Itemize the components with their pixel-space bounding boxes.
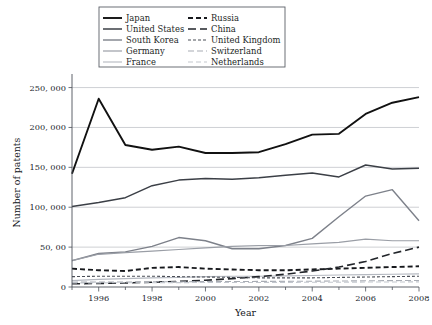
x-axis-title: Year xyxy=(234,307,257,318)
legend-label-france: France xyxy=(126,57,156,67)
y-tick-label: 150, 000 xyxy=(30,162,66,172)
x-tick-label: 2004 xyxy=(302,293,323,303)
series-line-russia xyxy=(72,266,419,271)
x-tick-label: 2000 xyxy=(195,293,216,303)
y-tick-label: 200, 000 xyxy=(30,122,66,132)
y-axis-title: Number of patents xyxy=(11,137,22,227)
legend-label-united-kingdom: United Kingdom xyxy=(211,35,281,45)
legend-label-switzerland: Switzerland xyxy=(211,46,262,56)
series-line-south-korea xyxy=(72,190,419,261)
y-axis-ticks: 050, 00100, 000150, 000200, 000250, 000 xyxy=(30,83,72,292)
legend-label-south-korea: South Korea xyxy=(126,35,179,45)
patents-line-chart: 050, 00100, 000150, 000200, 000250, 0001… xyxy=(0,0,432,325)
y-tick-label: 50, 00 xyxy=(40,242,66,252)
series-line-germany xyxy=(72,239,419,261)
x-tick-label: 1998 xyxy=(142,293,163,303)
legend-label-united-states: United States xyxy=(126,24,184,34)
y-tick-label: 250, 000 xyxy=(30,83,66,93)
series-line-switzerland xyxy=(72,280,419,282)
x-tick-label: 2008 xyxy=(409,293,430,303)
legend-label-japan: Japan xyxy=(125,13,151,23)
series-group xyxy=(72,97,419,284)
axes xyxy=(72,74,419,287)
x-axis-ticks: 1996199820002002200420062008 xyxy=(72,287,429,303)
legend-label-netherlands: Netherlands xyxy=(211,57,264,67)
chart-canvas: 050, 00100, 000150, 000200, 000250, 0001… xyxy=(0,0,432,325)
legend-label-china: China xyxy=(211,24,236,34)
series-line-japan xyxy=(72,97,419,174)
series-line-united-states xyxy=(72,165,419,206)
legend-label-russia: Russia xyxy=(211,13,239,23)
series-line-netherlands xyxy=(72,282,419,283)
x-tick-label: 1996 xyxy=(88,293,109,303)
legend-label-germany: Germany xyxy=(126,46,165,56)
y-tick-label: 0 xyxy=(61,282,66,292)
x-tick-label: 2002 xyxy=(248,293,269,303)
x-tick-label: 2006 xyxy=(355,293,376,303)
gridlines xyxy=(72,88,419,248)
legend: JapanUnited StatesSouth KoreaGermanyFran… xyxy=(99,7,285,67)
y-tick-label: 100, 000 xyxy=(30,202,66,212)
